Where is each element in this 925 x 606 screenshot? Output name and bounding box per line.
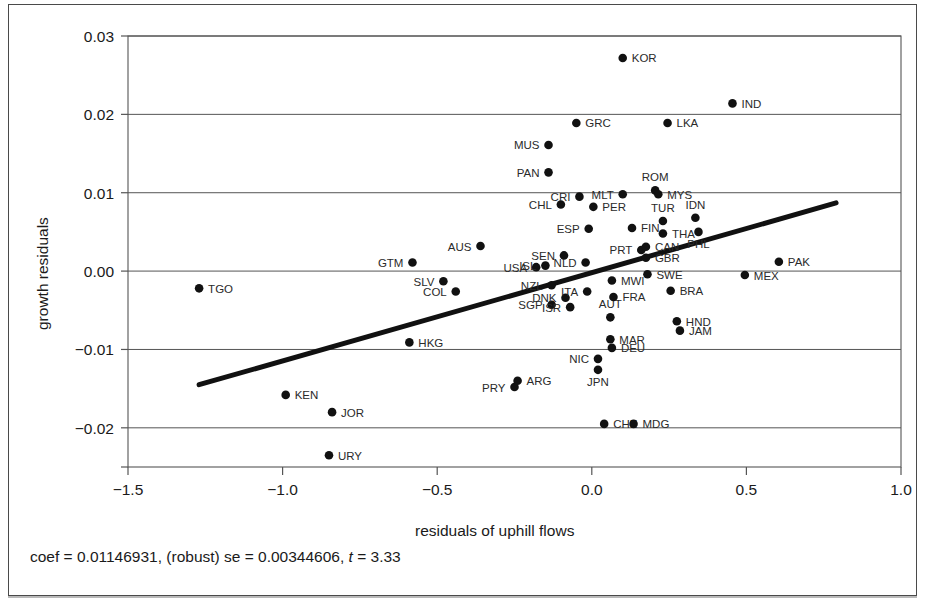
data-point bbox=[544, 141, 553, 150]
data-point-label: SWE bbox=[656, 269, 683, 281]
data-point bbox=[676, 326, 685, 335]
data-point-label: SEN bbox=[531, 250, 555, 262]
data-point bbox=[728, 99, 737, 108]
data-point bbox=[572, 119, 581, 128]
data-point bbox=[583, 287, 592, 296]
data-point-label: BRA bbox=[680, 285, 704, 297]
data-point bbox=[584, 224, 593, 233]
data-point bbox=[642, 253, 651, 262]
data-point bbox=[628, 224, 637, 233]
data-point-label: PER bbox=[602, 201, 626, 213]
data-point bbox=[741, 271, 750, 280]
data-point bbox=[666, 286, 675, 295]
data-point bbox=[600, 420, 609, 429]
figure-caption: coef = 0.01146931, (robust) se = 0.00344… bbox=[30, 548, 401, 566]
data-point-label: AUT bbox=[599, 298, 622, 310]
regression-fit-line bbox=[199, 203, 836, 385]
data-point-label: DEU bbox=[621, 342, 645, 354]
caption-suffix: = 3.33 bbox=[353, 548, 401, 565]
data-point bbox=[642, 242, 651, 251]
y-tick-label: 0.00 bbox=[84, 263, 115, 280]
x-tick-label: 1.0 bbox=[890, 481, 912, 498]
data-point bbox=[547, 281, 556, 290]
data-point-label: AUS bbox=[448, 241, 472, 253]
y-tick-label: 0.01 bbox=[84, 185, 114, 202]
data-point bbox=[513, 377, 522, 386]
data-point bbox=[328, 408, 337, 417]
data-point bbox=[405, 338, 414, 347]
data-point-label: GRC bbox=[585, 117, 611, 129]
y-tick-label: −0.02 bbox=[75, 420, 114, 437]
data-point-label: CRI bbox=[551, 191, 571, 203]
data-point bbox=[673, 317, 682, 326]
data-point bbox=[608, 276, 617, 285]
data-point-label: HKG bbox=[418, 337, 443, 349]
y-tick-label: −0.01 bbox=[75, 341, 114, 358]
data-point-label: JAM bbox=[689, 325, 712, 337]
x-tick-label: 0.0 bbox=[581, 481, 603, 498]
data-point-label: ITA bbox=[561, 286, 578, 298]
data-point bbox=[609, 293, 618, 302]
data-point bbox=[575, 192, 584, 201]
data-point-label: PRY bbox=[482, 382, 506, 394]
x-tick-label: 0.5 bbox=[736, 481, 758, 498]
data-point-label: MEX bbox=[754, 270, 779, 282]
data-point bbox=[594, 366, 603, 375]
scatter-plot: −1.5−1.0−0.50.00.51.0 −0.02−0.010.000.01… bbox=[0, 0, 925, 606]
data-point bbox=[775, 257, 784, 266]
x-axis-ticks: −1.5−1.0−0.50.00.51.0 bbox=[113, 467, 912, 498]
data-point bbox=[581, 258, 590, 267]
data-point-label: URY bbox=[338, 450, 362, 462]
data-point-label: FRA bbox=[622, 291, 645, 303]
data-point bbox=[659, 229, 668, 238]
data-point-label: NLD bbox=[554, 257, 577, 269]
data-point-label: MUS bbox=[514, 139, 540, 151]
data-point-label: COL bbox=[423, 286, 447, 298]
plot-frame bbox=[128, 36, 901, 467]
data-point-label: NZL bbox=[521, 280, 543, 292]
data-point-label: TGO bbox=[208, 283, 233, 295]
data-point bbox=[408, 258, 417, 267]
data-point-label: ROM bbox=[642, 171, 669, 183]
regression-line bbox=[199, 203, 836, 385]
data-point-label: ARG bbox=[527, 375, 552, 387]
data-point-label: MDG bbox=[643, 418, 670, 430]
data-point bbox=[608, 344, 617, 353]
data-point bbox=[566, 303, 575, 312]
caption-prefix: coef = 0.01146931, (robust) se = 0.00344… bbox=[30, 548, 349, 565]
data-point-label: IDN bbox=[685, 199, 705, 211]
x-tick-label: −0.5 bbox=[422, 481, 453, 498]
data-point-label: ISR bbox=[542, 302, 561, 314]
data-point-label: TUR bbox=[651, 202, 675, 214]
data-point bbox=[544, 168, 553, 177]
gridlines bbox=[128, 36, 901, 428]
data-point bbox=[659, 217, 668, 226]
data-point-label: FIN bbox=[641, 222, 660, 234]
data-point bbox=[694, 228, 703, 237]
data-point-label: CHL bbox=[529, 199, 553, 211]
y-axis-label: growth residuals bbox=[34, 217, 52, 330]
figure-bottom-rule bbox=[8, 596, 917, 598]
data-point bbox=[281, 391, 290, 400]
data-point bbox=[663, 119, 672, 128]
data-point bbox=[643, 270, 652, 279]
x-tick-label: −1.0 bbox=[267, 481, 298, 498]
x-axis-label: residuals of uphill flows bbox=[415, 522, 574, 540]
data-point bbox=[654, 190, 663, 199]
plot-border bbox=[128, 36, 901, 467]
data-point-label: PRT bbox=[609, 244, 632, 256]
data-point-label: MWI bbox=[621, 275, 645, 287]
data-point-label: GTM bbox=[378, 257, 404, 269]
data-point bbox=[629, 420, 638, 429]
data-point bbox=[195, 284, 204, 293]
data-point-label: KEN bbox=[295, 389, 319, 401]
data-point bbox=[439, 277, 448, 286]
data-point-label: PAN bbox=[517, 167, 540, 179]
data-point bbox=[594, 355, 603, 364]
data-point-label: IND bbox=[741, 98, 761, 110]
data-point-label: NIC bbox=[569, 353, 589, 365]
data-point bbox=[618, 54, 627, 63]
data-point-label: KOR bbox=[632, 52, 657, 64]
x-tick-label: −1.5 bbox=[113, 481, 144, 498]
data-point bbox=[451, 287, 460, 296]
